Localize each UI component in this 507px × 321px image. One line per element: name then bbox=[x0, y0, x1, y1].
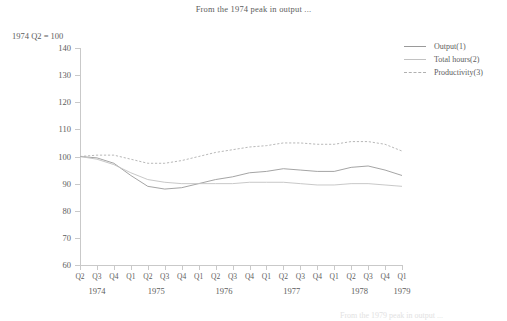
x-tick-label: Q4 bbox=[177, 272, 186, 281]
x-tick bbox=[233, 265, 234, 270]
y-tick-label: 100 bbox=[58, 152, 71, 162]
y-tick-label: 140 bbox=[58, 43, 71, 53]
x-tick bbox=[334, 265, 335, 270]
x-tick bbox=[165, 265, 166, 270]
x-tick-label: Q3 bbox=[228, 272, 237, 281]
x-axis-year-label: 1975 bbox=[148, 286, 165, 296]
x-tick bbox=[131, 265, 132, 270]
y-tick-label: 60 bbox=[63, 260, 72, 270]
legend-label: Total hours(2) bbox=[434, 55, 479, 64]
plot-area: 60708090100110120130140 Q2Q3Q4Q1Q2Q3Q4Q1… bbox=[80, 48, 402, 265]
y-tick-label: 70 bbox=[63, 233, 72, 243]
x-tick-label: Q1 bbox=[126, 272, 135, 281]
x-tick-label: Q3 bbox=[92, 272, 101, 281]
legend-label: Output(1) bbox=[434, 42, 466, 51]
x-tick-label: Q1 bbox=[262, 272, 271, 281]
x-tick-label: Q1 bbox=[194, 272, 203, 281]
x-tick-label: Q4 bbox=[381, 272, 390, 281]
x-tick bbox=[351, 265, 352, 270]
x-tick-label: Q2 bbox=[143, 272, 152, 281]
x-tick-label: Q2 bbox=[347, 272, 356, 281]
x-tick bbox=[300, 265, 301, 270]
legend-item: Total hours(2) bbox=[404, 53, 483, 66]
x-axis-year-label: 1974 bbox=[88, 286, 105, 296]
x-axis-line bbox=[80, 265, 402, 266]
x-tick bbox=[148, 265, 149, 270]
x-axis-year-label: 1977 bbox=[283, 286, 300, 296]
series-line bbox=[80, 157, 402, 187]
chart-title: From the 1974 peak in output ... bbox=[0, 4, 507, 14]
series-lines bbox=[80, 48, 402, 265]
x-tick bbox=[216, 265, 217, 270]
x-axis-year-label: 1979 bbox=[394, 286, 411, 296]
legend-swatch-icon bbox=[404, 59, 426, 60]
x-tick bbox=[114, 265, 115, 270]
x-tick bbox=[182, 265, 183, 270]
x-tick-label: Q4 bbox=[109, 272, 118, 281]
x-tick bbox=[402, 265, 403, 270]
y-axis-unit-label: 1974 Q2 = 100 bbox=[12, 31, 63, 41]
x-tick-label: Q2 bbox=[75, 272, 84, 281]
y-tick-label: 80 bbox=[63, 206, 72, 216]
x-tick-label: Q2 bbox=[279, 272, 288, 281]
legend-item: Productivity(3) bbox=[404, 66, 483, 79]
x-tick-label: Q1 bbox=[397, 272, 406, 281]
x-tick-label: Q3 bbox=[296, 272, 305, 281]
legend-label: Productivity(3) bbox=[434, 68, 483, 77]
x-axis-year-label: 1976 bbox=[216, 286, 233, 296]
series-line bbox=[80, 142, 402, 164]
x-tick bbox=[283, 265, 284, 270]
y-tick-label: 90 bbox=[63, 179, 72, 189]
x-tick-label: Q3 bbox=[160, 272, 169, 281]
y-tick-label: 120 bbox=[58, 97, 71, 107]
y-tick-label: 110 bbox=[59, 124, 71, 134]
x-tick-label: Q4 bbox=[313, 272, 322, 281]
x-tick bbox=[266, 265, 267, 270]
legend-swatch-icon bbox=[404, 46, 426, 47]
series-line bbox=[80, 157, 402, 190]
x-tick bbox=[317, 265, 318, 270]
legend-item: Output(1) bbox=[404, 40, 483, 53]
chart-figure: From the 1974 peak in output ... 1974 Q2… bbox=[0, 0, 507, 321]
legend-swatch-icon bbox=[404, 72, 426, 73]
chart-legend: Output(1)Total hours(2)Productivity(3) bbox=[404, 40, 483, 79]
x-tick-label: Q1 bbox=[330, 272, 339, 281]
x-axis-year-label: 1978 bbox=[351, 286, 368, 296]
x-tick-label: Q3 bbox=[364, 272, 373, 281]
x-tick bbox=[250, 265, 251, 270]
next-figure-caption: From the 1979 peak in output ... bbox=[340, 311, 507, 320]
x-tick-label: Q2 bbox=[211, 272, 220, 281]
x-tick bbox=[199, 265, 200, 270]
x-tick-label: Q4 bbox=[245, 272, 254, 281]
x-tick bbox=[368, 265, 369, 270]
y-tick-label: 130 bbox=[58, 70, 71, 80]
x-tick bbox=[97, 265, 98, 270]
x-tick bbox=[80, 265, 81, 270]
x-tick bbox=[385, 265, 386, 270]
